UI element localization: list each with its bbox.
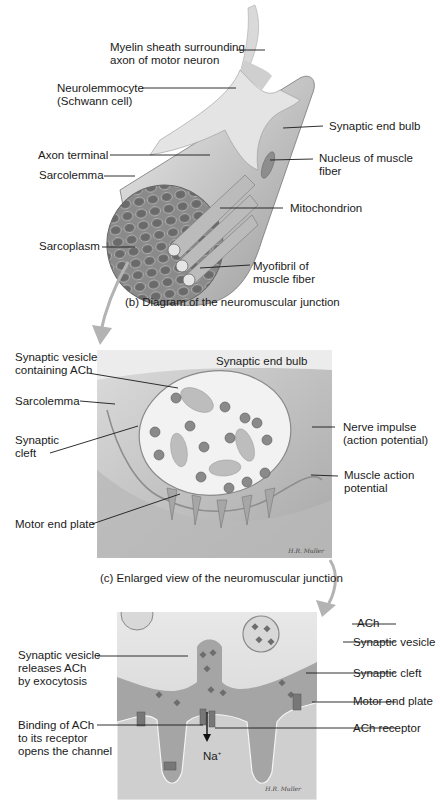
label-motor-end-plate-c: Motor end plate xyxy=(15,518,95,531)
label-motor-end-plate-d: Motor end plate xyxy=(353,695,433,708)
sodium-symbol: Na xyxy=(203,750,218,762)
label-synaptic-end-bulb: Synaptic end bulb xyxy=(329,120,420,133)
caption-panel-c: (c) Enlarged view of the neuromuscular j… xyxy=(100,572,343,585)
label-vesicle-containing-ach: Synaptic vesicle containing ACh xyxy=(15,351,97,377)
label-myelin-sheath: Myelin sheath surrounding axon of motor … xyxy=(110,41,245,67)
label-myofibril: Myofibril of muscle fiber xyxy=(253,260,315,286)
label-synaptic-vesicle: Synaptic vesicle xyxy=(353,636,435,649)
label-muscle-action-potential: Muscle action potential xyxy=(344,469,414,495)
label-neurolemmocyte: Neurolemmocyte (Schwann cell) xyxy=(57,82,144,108)
label-ach: ACh xyxy=(357,617,379,630)
label-mitochondrion: Mitochondrion xyxy=(290,202,362,215)
label-sarcolemma: Sarcolemma xyxy=(39,169,104,182)
label-axon-terminal: Axon terminal xyxy=(38,149,108,162)
label-nucleus-of-muscle-fiber: Nucleus of muscle fiber xyxy=(319,152,413,178)
label-ach-receptor: ACh receptor xyxy=(353,722,421,735)
label-binding-of-ach: Binding of ACh to its receptor opens the… xyxy=(18,719,112,758)
label-sodium-ion: Na+ xyxy=(203,747,221,763)
sodium-charge: + xyxy=(218,750,222,756)
label-synaptic-end-bulb-title: Synaptic end bulb xyxy=(216,355,307,368)
caption-panel-b: (b) Diagram of the neuromuscular junctio… xyxy=(125,296,340,309)
label-synaptic-cleft-c: Synaptic cleft xyxy=(15,434,59,460)
label-sarcoplasm: Sarcoplasm xyxy=(39,240,100,253)
label-sarcolemma-c: Sarcolemma xyxy=(15,395,80,408)
label-vesicle-releases-ach: Synaptic vesicle releases ACh by exocyto… xyxy=(18,649,100,688)
label-synaptic-cleft-d: Synaptic cleft xyxy=(353,667,421,680)
label-nerve-impulse: Nerve impulse (action potential) xyxy=(343,421,428,447)
